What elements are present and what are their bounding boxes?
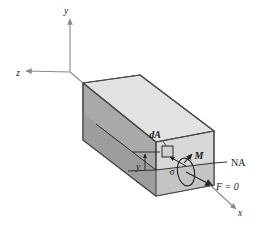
axis-label-x: x: [237, 208, 243, 218]
bending-stress-figure: y z x dA y σ M NA F = 0: [0, 0, 263, 226]
label-stress-sigma: σ: [169, 167, 174, 177]
label-area-element-dA: dA: [149, 129, 161, 140]
origin-to-box-line: [70, 72, 83, 83]
label-distance-y: y: [135, 162, 141, 172]
area-element-dA-square: [162, 146, 173, 157]
axis-label-y: y: [63, 6, 69, 16]
axis-label-z: z: [15, 68, 20, 78]
neutral-axis-leader-line: [214, 162, 227, 163]
coordinate-axes: [26, 19, 83, 83]
label-moment-M: M: [194, 150, 205, 161]
label-resultant-force: F = 0: [215, 181, 239, 192]
z-axis-line: [26, 71, 70, 72]
figure-canvas: y z x dA y σ M NA F = 0: [0, 0, 263, 226]
label-neutral-axis-NA: NA: [231, 157, 246, 168]
